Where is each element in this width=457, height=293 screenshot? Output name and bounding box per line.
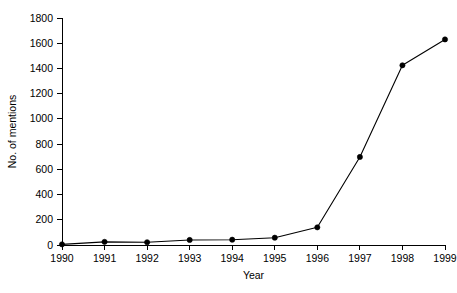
x-axis-title: Year (243, 269, 265, 281)
data-point-marker (187, 237, 192, 242)
data-point-marker (315, 225, 320, 230)
data-point-marker (59, 242, 64, 247)
x-tick-label: 1997 (348, 252, 372, 264)
data-point-marker (357, 154, 362, 159)
data-point-marker (442, 37, 447, 42)
x-tick-label: 1993 (178, 252, 202, 264)
y-tick-label: 1800 (30, 12, 54, 24)
y-tick-label: 0 (47, 239, 53, 251)
x-tick-label: 1994 (221, 252, 245, 264)
y-tick-label: 200 (35, 213, 53, 225)
chart-canvas: 0200400600800100012001400160018001990199… (0, 0, 457, 293)
data-point-marker (145, 240, 150, 245)
x-tick-label: 1995 (263, 252, 287, 264)
y-axis-title: No. of mentions (6, 95, 18, 169)
y-tick-label: 1000 (30, 112, 54, 124)
x-tick-label: 1999 (433, 252, 457, 264)
data-point-marker (400, 63, 405, 68)
y-tick-label: 1400 (30, 62, 54, 74)
y-tick-label: 1200 (30, 87, 54, 99)
x-tick-label: 1990 (50, 252, 74, 264)
x-tick-label: 1991 (93, 252, 117, 264)
data-point-marker (230, 237, 235, 242)
y-tick-label: 400 (35, 188, 53, 200)
x-tick-label: 1992 (135, 252, 159, 264)
y-tick-label: 600 (35, 163, 53, 175)
y-tick-label: 1600 (30, 37, 54, 49)
x-tick-label: 1998 (391, 252, 415, 264)
data-point-marker (102, 239, 107, 244)
line-chart: 0200400600800100012001400160018001990199… (0, 0, 457, 293)
data-point-marker (272, 235, 277, 240)
series-line (62, 39, 445, 244)
y-tick-label: 800 (35, 138, 53, 150)
x-tick-label: 1996 (306, 252, 330, 264)
